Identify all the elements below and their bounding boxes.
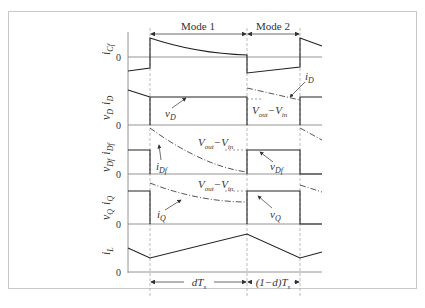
vd-trace [128,90,322,125]
svg-text:Vout−Vin: Vout−Vin [198,178,234,193]
svg-text:iL: iL [99,247,115,255]
interval-dts: dTs [192,276,207,291]
icf-trace [128,38,322,73]
svg-text:vDf: vDf [270,160,285,175]
svg-text:iQ: iQ [157,208,166,223]
y-label-vq-iq: vQiQ [99,196,115,220]
annotation-id: iD [290,70,314,97]
il-trace [128,234,322,258]
y-label-vd-id: vDiD [99,96,115,120]
annotation-vdf: vDf [260,152,285,175]
zero-labels: 0 0 0 0 0 [116,52,121,278]
interval-1-dts: (1−d)Ts [256,276,291,291]
annotation-vd: vD [165,98,186,122]
annotation-iq: iQ [157,200,181,223]
id-trace [247,88,300,100]
svg-text:iCf: iCf [99,42,115,55]
mode2-label: Mode 2 [256,20,290,32]
svg-text:0: 0 [116,169,121,180]
svg-text:0: 0 [116,219,121,230]
svg-text:iDf: iDf [156,160,169,175]
timing-guides [150,28,300,298]
svg-text:Vout−Vin: Vout−Vin [198,136,234,151]
svg-text:Vout−Vin: Vout−Vin [252,104,288,119]
annotation-idf: iDf [156,145,169,175]
y-label-icf: iCf [99,42,115,55]
svg-text:vQiQ: vQiQ [99,196,115,220]
annotation-vq: vQ [258,196,281,223]
svg-text:0: 0 [116,120,121,131]
annotation-vout-vin-q: Vout−Vin [198,178,234,193]
mode1-label: Mode 1 [181,20,215,32]
annotation-vout-vin-mode2: Vout−Vin [252,104,288,119]
svg-text:iD: iD [305,70,314,85]
svg-text:vDfiDf: vDfiDf [99,142,115,172]
y-label-vdf-idf: vDfiDf [99,142,115,172]
svg-text:vQ: vQ [270,208,281,223]
y-label-il: iL [99,247,115,255]
annotation-vout-vin-df: Vout−Vin [198,136,234,151]
svg-text:0: 0 [116,52,121,63]
svg-text:vD: vD [165,107,176,122]
waveform-diagram: Mode 1 Mode 2 0 0 0 0 0 iCf vDiD vDfiDf … [0,0,425,308]
iq-trace [150,183,322,202]
svg-text:vDiD: vDiD [99,96,115,120]
svg-text:0: 0 [116,267,121,278]
